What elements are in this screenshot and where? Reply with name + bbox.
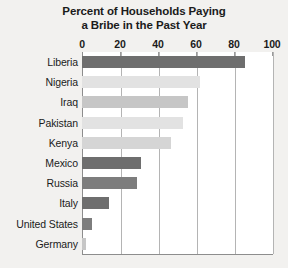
x-tick-label-100: 100	[264, 38, 281, 50]
bar-united-states[interactable]	[82, 218, 92, 230]
chart-title: Percent of Households Paying a Bribe in …	[0, 4, 288, 32]
bar-nigeria[interactable]	[82, 76, 200, 88]
category-label-iraq: Iraq	[60, 96, 78, 108]
axis-bottom-rule	[82, 254, 273, 255]
bar-mexico[interactable]	[82, 157, 141, 169]
bar-row[interactable]: Germany	[0, 234, 288, 254]
bar-chart-figure: Percent of Households Paying a Bribe in …	[0, 0, 288, 268]
bar-liberia[interactable]	[82, 56, 245, 68]
category-label-united-states: United States	[16, 218, 78, 230]
bar-italy[interactable]	[82, 197, 109, 209]
tick-mark-100	[272, 52, 273, 56]
x-tick-label-60: 60	[190, 38, 201, 50]
bar-row[interactable]: United States	[0, 214, 288, 234]
bar-germany[interactable]	[82, 238, 86, 250]
bar-russia[interactable]	[82, 177, 137, 189]
x-tick-label-80: 80	[228, 38, 239, 50]
category-label-kenya: Kenya	[49, 137, 78, 149]
x-tick-label-40: 40	[152, 38, 163, 50]
bar-row[interactable]: Mexico	[0, 153, 288, 173]
bar-row[interactable]: Russia	[0, 173, 288, 193]
x-tick-label-20: 20	[114, 38, 125, 50]
tick-mark-60	[196, 52, 197, 56]
bar-kenya[interactable]	[82, 137, 171, 149]
category-label-liberia: Liberia	[47, 56, 78, 68]
bar-row[interactable]: Italy	[0, 193, 288, 213]
x-tick-label-0: 0	[79, 38, 85, 50]
category-label-nigeria: Nigeria	[45, 76, 78, 88]
bar-pakistan[interactable]	[82, 117, 183, 129]
x-axis-tick-labels: 020406080100	[0, 38, 288, 52]
chart-title-line-1: Percent of Households Paying	[0, 4, 288, 18]
tick-mark-80	[234, 52, 235, 56]
tick-mark-20	[120, 52, 121, 56]
bar-row[interactable]: Nigeria	[0, 72, 288, 92]
bar-row[interactable]: Pakistan	[0, 113, 288, 133]
bar-iraq[interactable]	[82, 96, 188, 108]
category-label-pakistan: Pakistan	[39, 117, 78, 129]
bar-row[interactable]: Liberia	[0, 52, 288, 72]
category-label-germany: Germany	[36, 238, 78, 250]
tick-mark-40	[158, 52, 159, 56]
chart-title-line-2: a Bribe in the Past Year	[0, 18, 288, 32]
bar-row[interactable]: Iraq	[0, 92, 288, 112]
category-label-italy: Italy	[59, 197, 78, 209]
bar-rows: LiberiaNigeriaIraqPakistanKenyaMexicoRus…	[0, 52, 288, 254]
bar-row[interactable]: Kenya	[0, 133, 288, 153]
category-label-mexico: Mexico	[45, 157, 78, 169]
category-label-russia: Russia	[47, 177, 79, 189]
